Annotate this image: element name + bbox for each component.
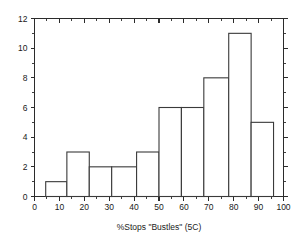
histogram-bar xyxy=(89,167,111,197)
histogram-bar xyxy=(181,108,203,197)
x-tick-label: 30 xyxy=(104,202,114,212)
x-tick-label: 10 xyxy=(55,202,65,212)
histogram-bar xyxy=(204,78,229,197)
x-tick-label: 20 xyxy=(80,202,90,212)
histogram-bar xyxy=(137,152,159,197)
histogram-bar xyxy=(229,33,251,196)
x-tick-label: 50 xyxy=(154,202,164,212)
histogram-bar xyxy=(112,167,137,197)
x-tick-label: 60 xyxy=(179,202,189,212)
histogram-plot: 0102030405060708090100 024681012 %Stops … xyxy=(0,0,303,244)
y-tick-label: 6 xyxy=(23,103,28,113)
x-tick-label: 100 xyxy=(276,202,290,212)
histogram-bar xyxy=(46,182,67,197)
x-tick-label: 0 xyxy=(32,202,37,212)
x-axis-title-text: %Stops "Bustles" (5C) xyxy=(117,222,202,232)
y-tick-label: 0 xyxy=(23,192,28,202)
histogram-bar xyxy=(251,122,273,196)
y-tick-label: 10 xyxy=(18,43,28,53)
x-tick-label: 70 xyxy=(204,202,214,212)
y-tick-label: 2 xyxy=(23,162,28,172)
histogram-figure: 0102030405060708090100 024681012 %Stops … xyxy=(0,0,303,244)
y-tick-label: 12 xyxy=(18,14,28,24)
histogram-bar xyxy=(67,152,89,197)
x-tick-label: 40 xyxy=(129,202,139,212)
histogram-bar xyxy=(159,108,181,197)
y-tick-label: 8 xyxy=(23,73,28,83)
y-tick-label: 4 xyxy=(23,132,28,142)
x-tick-label: 80 xyxy=(229,202,239,212)
x-tick-label: 90 xyxy=(254,202,264,212)
x-axis-title: %Stops "Bustles" (5C) xyxy=(117,222,202,232)
